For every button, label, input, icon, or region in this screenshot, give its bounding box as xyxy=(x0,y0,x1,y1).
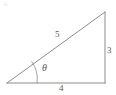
hypotenuse-label: 5 xyxy=(55,30,60,39)
triangle-outline xyxy=(7,12,105,83)
triangle-figure: A 5 3 4 θ xyxy=(0,0,116,95)
angle-theta-label: θ xyxy=(42,63,47,73)
vertical-leg-label: 3 xyxy=(107,46,112,55)
triangle-drawing xyxy=(0,0,116,95)
hypotenuse-line xyxy=(7,12,105,83)
horizontal-leg-label: 4 xyxy=(59,84,64,93)
